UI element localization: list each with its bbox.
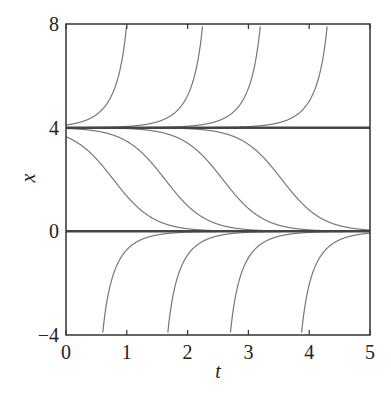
solution-curve	[230, 231, 370, 332]
y-tick-label: −4	[38, 324, 59, 346]
y-tick-label: 8	[49, 13, 59, 35]
x-tick-label: 1	[122, 341, 132, 363]
solution-curve	[302, 233, 370, 332]
x-axis-label: t	[215, 360, 221, 382]
solution-curve	[168, 231, 370, 332]
x-ticks: 012345	[61, 24, 375, 363]
chart: 012345 −4048 t x	[0, 0, 391, 396]
y-ticks: −4048	[38, 13, 59, 346]
solution-curve	[66, 26, 203, 127]
solution-curve	[66, 128, 370, 230]
x-tick-label: 2	[183, 341, 193, 363]
x-tick-label: 3	[243, 341, 253, 363]
solution-curve	[66, 26, 127, 125]
y-tick-label: 4	[49, 117, 59, 139]
solution-curve	[66, 128, 370, 232]
solution-curve	[66, 128, 370, 231]
x-tick-label: 5	[365, 341, 375, 363]
x-tick-label: 0	[61, 341, 71, 363]
x-tick-label: 4	[304, 341, 314, 363]
plot-frame	[66, 24, 370, 335]
y-axis-label: x	[17, 173, 39, 183]
curves	[66, 26, 370, 332]
solution-curve	[66, 26, 327, 127]
solution-curve	[66, 26, 260, 127]
y-tick-label: 0	[49, 220, 59, 242]
solution-curve	[66, 137, 370, 232]
